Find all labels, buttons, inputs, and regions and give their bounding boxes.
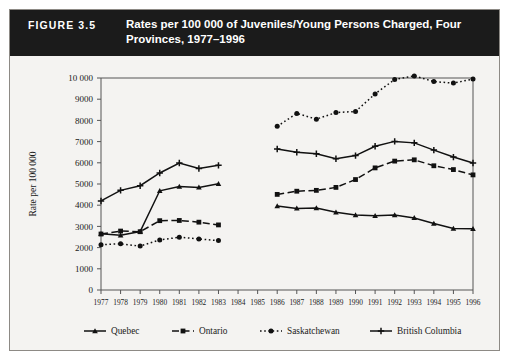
data-point <box>333 110 338 115</box>
data-point <box>157 218 162 223</box>
series-quebec <box>98 181 476 238</box>
legend-label: Ontario <box>199 326 228 336</box>
data-point <box>412 73 417 78</box>
figure-title: Rates per 100 000 of Juveniles/Young Per… <box>126 17 476 47</box>
data-point <box>216 238 221 243</box>
x-tick-label: 1993 <box>407 298 422 307</box>
data-point <box>353 109 358 114</box>
data-point <box>177 218 182 223</box>
data-point <box>269 329 274 334</box>
data-point <box>275 124 280 129</box>
data-point <box>118 241 123 246</box>
y-tick-label: 7000 <box>75 137 94 147</box>
data-point <box>177 235 182 240</box>
x-tick-label: 1981 <box>172 298 187 307</box>
x-tick-label: 1995 <box>446 298 461 307</box>
data-point <box>372 143 378 149</box>
data-point <box>451 81 456 86</box>
data-point <box>333 156 339 162</box>
x-tick-label: 1988 <box>309 298 324 307</box>
data-point <box>196 165 202 171</box>
x-tick-label: 1983 <box>211 298 226 307</box>
x-tick-label: 1982 <box>192 298 207 307</box>
x-tick-label: 1989 <box>329 298 344 307</box>
x-tick-label: 1987 <box>289 298 304 307</box>
data-point <box>275 192 280 197</box>
data-point <box>431 163 436 168</box>
data-point <box>294 149 300 155</box>
data-point <box>373 91 378 96</box>
legend-label: Quebec <box>111 326 139 336</box>
data-point <box>196 220 201 225</box>
data-point <box>98 198 104 204</box>
x-tick-label: 1990 <box>348 298 363 307</box>
data-point <box>471 77 476 82</box>
chart-area: 010002000300040005000600070008000900010 … <box>10 56 499 352</box>
series-british-columbia <box>98 138 476 204</box>
x-tick-label: 1986 <box>270 298 285 307</box>
x-tick-label: 1977 <box>94 298 109 307</box>
x-tick-label: 1991 <box>368 298 383 307</box>
x-tick-label: 1979 <box>133 298 148 307</box>
data-point <box>274 146 280 152</box>
y-axis-title: Rate per 100 000 <box>28 151 38 216</box>
figure-title-bar: FIGURE 3.5 Rates per 100 000 of Juvenile… <box>10 10 499 56</box>
data-point <box>138 229 143 234</box>
x-tick-label: 1985 <box>250 298 265 307</box>
data-point <box>392 77 397 82</box>
y-tick-label: 8000 <box>75 116 94 126</box>
data-point <box>314 188 319 193</box>
data-point <box>373 165 378 170</box>
data-point <box>392 159 397 164</box>
data-point <box>99 232 104 237</box>
line-chart: 010002000300040005000600070008000900010 … <box>10 56 501 352</box>
chart-legend: QuebecOntarioSaskatchewanBritish Columbi… <box>84 326 461 336</box>
data-point <box>431 147 437 153</box>
y-tick-label: 6000 <box>75 158 94 168</box>
data-point <box>412 157 417 162</box>
series-line <box>277 76 473 126</box>
data-point <box>294 111 299 116</box>
y-tick-label: 9000 <box>75 94 94 104</box>
figure-number: FIGURE 3.5 <box>28 19 96 31</box>
data-point <box>196 236 201 241</box>
data-point <box>450 154 456 160</box>
legend-label: British Columbia <box>397 326 461 336</box>
x-tick-label: 1996 <box>466 298 481 307</box>
y-tick-label: 2000 <box>75 243 94 253</box>
x-tick-label: 1984 <box>231 298 246 307</box>
x-tick-label: 1980 <box>152 298 167 307</box>
data-point <box>313 150 319 156</box>
y-tick-label: 4000 <box>75 200 94 210</box>
data-point <box>411 140 417 146</box>
series-ontario <box>99 157 476 236</box>
x-tick-label: 1978 <box>113 298 128 307</box>
data-point <box>451 167 456 172</box>
data-point <box>294 189 299 194</box>
y-tick-label: 0 <box>89 285 94 295</box>
data-point <box>470 160 476 166</box>
data-point <box>352 152 358 158</box>
data-point <box>99 242 104 247</box>
figure-container: FIGURE 3.5 Rates per 100 000 of Juvenile… <box>9 9 500 351</box>
data-point <box>353 177 358 182</box>
data-point <box>117 187 123 193</box>
data-point <box>118 229 123 234</box>
data-point <box>157 237 162 242</box>
data-point <box>334 185 339 190</box>
data-point <box>391 138 397 144</box>
data-point <box>378 328 384 334</box>
y-tick-label: 3000 <box>75 222 94 232</box>
data-point <box>314 117 319 122</box>
y-tick-label: 1000 <box>75 264 94 274</box>
y-tick-label: 5000 <box>75 179 94 189</box>
data-point <box>181 329 186 334</box>
data-point <box>216 223 221 228</box>
x-tick-label: 1992 <box>387 298 402 307</box>
data-point <box>138 244 143 249</box>
data-point <box>431 79 436 84</box>
y-tick-label: 10 000 <box>68 73 93 83</box>
data-point <box>215 162 221 168</box>
x-tick-label: 1994 <box>426 298 441 307</box>
data-point <box>471 172 476 177</box>
